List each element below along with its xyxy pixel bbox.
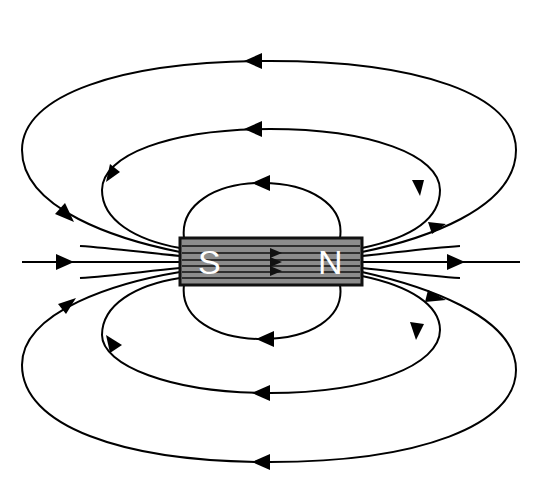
- arrow-icon: [244, 53, 262, 69]
- field-line-bottom-outer: [22, 272, 516, 462]
- arrow-icon: [56, 254, 74, 270]
- field-line-top-inner: [184, 183, 341, 238]
- field-line-top-middle: [102, 129, 440, 248]
- south-pole-label: S: [198, 245, 221, 279]
- field-lines-svg: [0, 0, 547, 501]
- field-line-bottom-inner: [184, 285, 341, 339]
- arrow-icon: [447, 254, 465, 270]
- bar-magnet-field-diagram: S N: [0, 0, 547, 501]
- field-line-top-outer: [22, 61, 516, 252]
- arrow-icon: [106, 164, 120, 182]
- arrow-icon: [412, 180, 424, 196]
- arrow-icon: [410, 322, 424, 340]
- arrow-icon: [244, 121, 262, 137]
- arrow-icon: [252, 385, 270, 401]
- arrow-icon: [256, 331, 274, 347]
- arrow-icon: [252, 454, 270, 470]
- north-pole-label: N: [318, 245, 343, 279]
- arrow-icon: [252, 175, 270, 191]
